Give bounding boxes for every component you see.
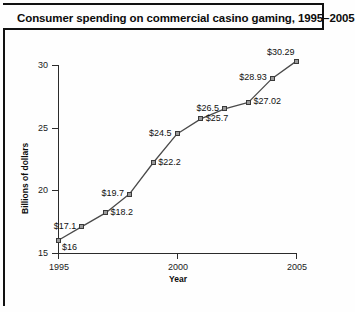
- data-point-label: $24.5: [149, 128, 172, 138]
- data-point-marker: [198, 116, 203, 121]
- data-point-label: $26.5: [197, 103, 220, 113]
- data-point-label: $22.2: [158, 157, 181, 167]
- data-point-marker: [175, 131, 180, 136]
- data-point-marker: [151, 160, 156, 165]
- data-point-label: $16: [62, 242, 77, 252]
- data-point-marker: [222, 106, 227, 111]
- data-point-marker: [270, 76, 275, 81]
- data-point-marker: [79, 224, 84, 229]
- data-point-marker: [103, 210, 108, 215]
- data-point-label: $28.93: [239, 72, 267, 82]
- data-point-label: $19.7: [101, 188, 124, 198]
- data-point-marker: [246, 100, 251, 105]
- data-point-label: $18.2: [111, 207, 134, 217]
- data-point-label: $27.02: [253, 96, 281, 106]
- data-point-label: $25.7: [206, 113, 229, 123]
- data-point-label: $30.29: [267, 47, 295, 57]
- data-point-label: $17.1: [54, 221, 77, 231]
- data-point-marker: [294, 59, 299, 64]
- data-point-marker: [56, 238, 61, 243]
- data-point-marker: [127, 192, 132, 197]
